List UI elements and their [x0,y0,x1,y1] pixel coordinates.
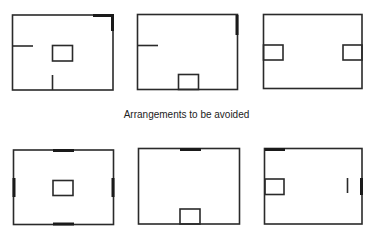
room-1-center-box [53,46,73,62]
arrangements-diagram [0,0,373,245]
caption-arrangements-to-be-avoided: Arrangements to be avoided [0,109,373,120]
room-2-outline [138,15,238,90]
room-4-outline [14,150,114,225]
room-6 [265,149,363,225]
room-5 [139,149,240,225]
room-5-outline [139,149,240,225]
room-4-center-box [53,181,73,196]
room-1-outline [13,15,114,90]
room-2 [138,15,238,90]
room-3-left-box [264,45,284,60]
room-3-right-box [343,45,362,60]
room-3-outline [264,15,363,89]
room-5-bottom-box [180,209,200,224]
room-1-heavy-corner [93,16,113,32]
room-6-left-box [265,179,284,195]
room-4 [14,150,114,225]
room-3 [264,15,363,89]
room-2-bottom-box [179,75,199,90]
room-1 [13,15,114,90]
